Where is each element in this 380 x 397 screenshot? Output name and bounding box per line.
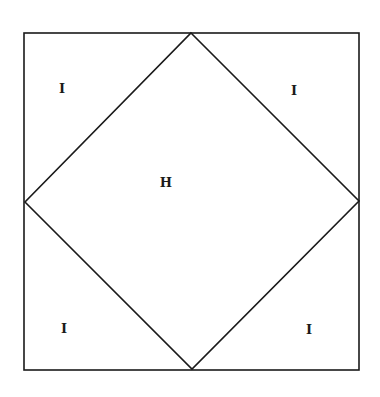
inner-diamond <box>25 33 359 369</box>
region-label-bottom-left: I <box>61 321 67 336</box>
region-label-top-left: I <box>59 81 65 96</box>
outer-square <box>24 33 359 370</box>
region-label-center: H <box>160 175 172 190</box>
diagram-canvas <box>0 0 380 397</box>
region-label-bottom-right: I <box>306 322 312 337</box>
region-label-top-right: I <box>291 83 297 98</box>
